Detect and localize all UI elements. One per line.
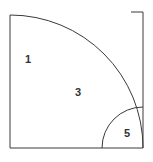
geometry-figure: 1 3 5 [0, 0, 153, 162]
region-label-1: 1 [25, 54, 31, 65]
region-label-3: 3 [75, 87, 81, 98]
small-quarter-arc [102, 107, 143, 148]
region-label-5: 5 [124, 128, 130, 139]
